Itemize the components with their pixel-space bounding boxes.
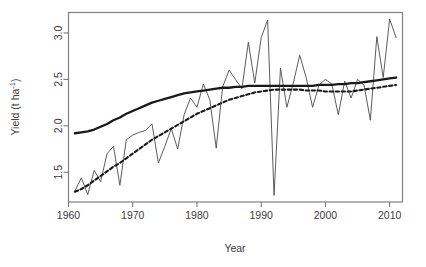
y-tick-label: 2.0 [52, 118, 64, 133]
x-tick-label: 1970 [121, 209, 145, 221]
chart-background [0, 0, 426, 267]
y-tick-label: 1.5 [52, 165, 64, 180]
yield-trend-chart: 1.52.02.53.0 196019701980199020002010 Ye… [0, 0, 426, 267]
y-tick-label: 3.0 [52, 25, 64, 40]
x-tick-label: 1990 [250, 209, 274, 221]
x-tick-label: 2010 [378, 209, 402, 221]
chart-canvas: 1.52.02.53.0 196019701980199020002010 Ye… [0, 0, 426, 267]
x-tick-label: 1980 [185, 209, 209, 221]
x-tick-label: 1960 [57, 209, 81, 221]
x-axis-title: Year [224, 242, 246, 254]
y-axis-title-close: ) [9, 78, 21, 82]
x-tick-label: 2000 [314, 209, 338, 221]
y-axis-title-superscript: -1 [8, 82, 17, 89]
y-axis-title-main: Yield (t ha [9, 88, 21, 135]
y-tick-label: 2.5 [52, 72, 64, 87]
